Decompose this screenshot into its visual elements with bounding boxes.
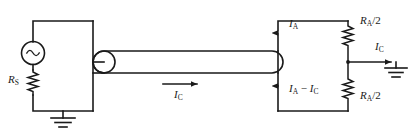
circuit-diagram-canvas: RS IC IA IA − IC RA/2 RA/2 IC (0, 0, 416, 133)
ra-top-resistor-symbol (343, 21, 353, 62)
wire-rs-to-ground-rail (33, 95, 93, 111)
label-ic-right: IC (375, 41, 384, 53)
coax-cable-body (93, 51, 283, 73)
label-ia-minus-ic: IA − IC (289, 83, 319, 95)
ground-left-symbol (51, 111, 75, 127)
ac-source-symbol (22, 42, 45, 65)
label-ra-top: RA/2 (360, 15, 381, 27)
label-ia-top: IA (289, 18, 298, 30)
ground-right-symbol (385, 62, 407, 77)
label-ic-cable: IC (174, 89, 183, 101)
source-top-rail (33, 21, 93, 42)
rs-resistor-symbol (28, 70, 38, 95)
ra-bottom-resistor-symbol (343, 62, 353, 111)
label-ra-bottom: RA/2 (360, 90, 381, 102)
schematic-svg (0, 0, 416, 133)
label-rs: RS (8, 74, 19, 86)
